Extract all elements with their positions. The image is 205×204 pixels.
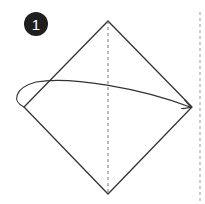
fold-arrow-icon — [17, 80, 190, 107]
fold-diagram — [0, 0, 205, 204]
